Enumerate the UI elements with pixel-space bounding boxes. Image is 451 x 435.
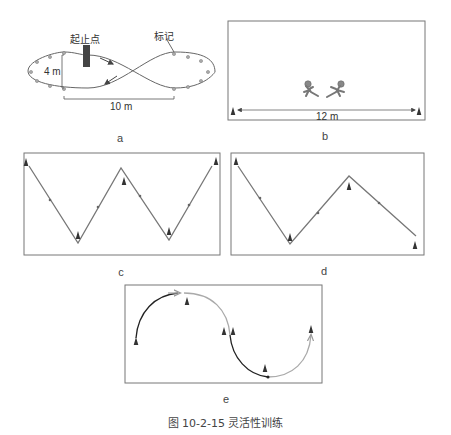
path-direction-dots <box>259 197 381 215</box>
runner-right-icon <box>327 81 344 97</box>
cone-icon <box>413 241 418 249</box>
panel-e-label: e <box>216 393 236 405</box>
direction-arrow-right <box>100 58 113 64</box>
cone-icon <box>214 157 219 165</box>
length-label: 10 m <box>110 101 132 112</box>
curve-segment-dark-2 <box>230 335 268 377</box>
panel-b-box <box>228 21 425 120</box>
start-stop-label: 起止点 <box>70 31 100 46</box>
cone-icon <box>234 157 239 165</box>
start-stop-post <box>83 45 90 67</box>
curve-segment-light-3 <box>268 335 311 377</box>
cone-icon <box>134 337 139 345</box>
cone-icon <box>76 231 81 239</box>
panel-d-label: d <box>314 265 334 277</box>
path-direction-dots <box>49 195 191 209</box>
turn-point <box>267 376 270 379</box>
zigzag-path-n <box>238 166 416 244</box>
panel-c-zigzag <box>24 153 220 255</box>
cone-icon <box>231 107 236 115</box>
cone-icon <box>167 227 172 235</box>
cone-icon <box>222 327 227 335</box>
cone-icon <box>309 325 314 333</box>
cone-icon <box>185 297 190 305</box>
panel-a-label: a <box>110 132 130 144</box>
distance-label: 12 m <box>316 111 338 122</box>
cone-icon <box>288 233 293 241</box>
cone-icon <box>263 364 268 372</box>
panel-c-label: c <box>111 266 131 278</box>
panel-d-zigzag <box>231 153 424 255</box>
width-label: 4 m <box>44 66 61 77</box>
zigzag-path-w <box>29 166 212 243</box>
cone-icon <box>347 182 352 190</box>
panel-d-box <box>231 153 424 255</box>
cone-icon <box>122 177 127 185</box>
diagram-canvas <box>0 0 451 435</box>
panel-b-relay <box>228 21 425 120</box>
marker-dots-right <box>172 52 209 90</box>
panel-b-label: b <box>315 130 335 142</box>
curve-segment-light-2 <box>184 293 230 335</box>
cone-icon <box>231 327 236 335</box>
cone-icon <box>417 107 422 115</box>
runner-left-icon <box>304 81 318 96</box>
width-bracket <box>62 55 64 88</box>
panel-e-s-curve <box>125 285 322 383</box>
figure-caption: 图 10-2-15 灵活性训练 <box>0 414 451 430</box>
curve-segment-dark-1 <box>136 293 178 338</box>
marker-label: 标记 <box>154 28 174 43</box>
length-bracket <box>64 96 174 99</box>
